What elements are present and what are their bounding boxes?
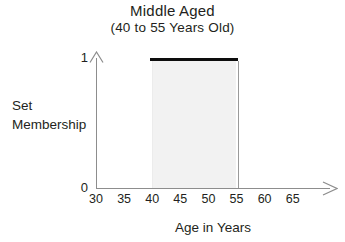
y-axis-arrow-icon <box>89 51 104 63</box>
chart-figure: Middle Aged (40 to 55 Years Old) Set Mem… <box>0 0 345 242</box>
x-axis-title: Age in Years <box>96 220 330 236</box>
x-tick-label-60: 60 <box>250 192 280 207</box>
membership-plateau-line <box>150 58 238 61</box>
y-axis-label: Set Membership <box>12 96 96 134</box>
y-tick-label-1: 1 <box>72 50 88 65</box>
membership-left-edge <box>152 61 153 188</box>
x-tick-label-45: 45 <box>165 192 195 207</box>
x-tick-label-55: 55 <box>222 192 252 207</box>
y-axis-label-line-2: Membership <box>12 115 96 134</box>
x-tick-label-50: 50 <box>193 192 223 207</box>
membership-right-edge <box>238 61 239 188</box>
y-axis-line <box>96 58 97 189</box>
x-axis-arrow-icon <box>322 181 338 196</box>
y-axis-label-line-1: Set <box>12 96 96 115</box>
x-tick-label-40: 40 <box>137 192 167 207</box>
x-tick-label-65: 65 <box>278 192 308 207</box>
chart-title: Middle Aged <box>0 2 345 20</box>
x-tick-label-30: 30 <box>81 192 111 207</box>
membership-region-fill <box>152 61 236 188</box>
chart-subtitle: (40 to 55 Years Old) <box>0 20 345 36</box>
x-axis-line <box>96 188 330 189</box>
x-tick-label-35: 35 <box>109 192 139 207</box>
